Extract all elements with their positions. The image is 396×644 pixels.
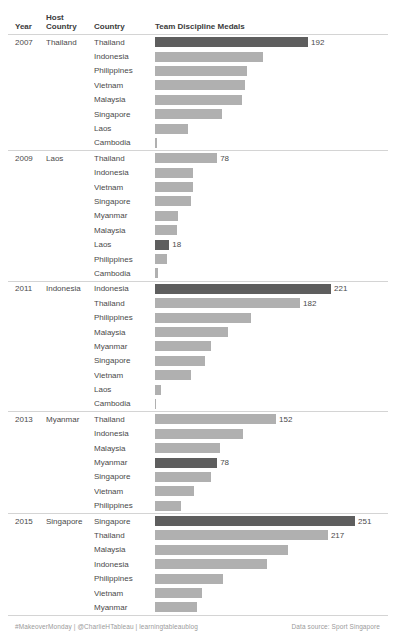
- bar-cell[interactable]: [155, 499, 388, 513]
- table-row[interactable]: Singapore: [8, 354, 388, 368]
- bar-cell[interactable]: [155, 543, 388, 557]
- medal-bar[interactable]: [155, 211, 178, 221]
- medal-bar[interactable]: [155, 602, 197, 612]
- medal-bar[interactable]: [155, 66, 247, 76]
- table-row[interactable]: 2007ThailandThailand192: [8, 35, 388, 49]
- table-row[interactable]: Indonesia: [8, 427, 388, 441]
- medal-bar[interactable]: [155, 443, 220, 453]
- bar-cell[interactable]: [155, 354, 388, 368]
- bar-cell[interactable]: 78: [155, 455, 388, 469]
- medal-bar[interactable]: [155, 399, 156, 409]
- table-row[interactable]: 2009LaosThailand78: [8, 151, 388, 165]
- medal-bar[interactable]: [155, 545, 288, 555]
- medal-bar[interactable]: [155, 341, 211, 351]
- bar-cell[interactable]: [155, 325, 388, 339]
- bar-cell[interactable]: [155, 571, 388, 585]
- bar-cell[interactable]: [155, 180, 388, 194]
- table-row[interactable]: Philippines: [8, 499, 388, 513]
- medal-bar[interactable]: [155, 109, 222, 119]
- medal-bar[interactable]: [155, 268, 158, 278]
- table-row[interactable]: Vietnam: [8, 586, 388, 600]
- bar-cell[interactable]: [155, 49, 388, 63]
- bar-cell[interactable]: [155, 266, 388, 280]
- bar-cell[interactable]: [155, 397, 388, 411]
- medal-bar[interactable]: [155, 153, 217, 163]
- table-row[interactable]: 2013MyanmarThailand152: [8, 412, 388, 426]
- medal-bar[interactable]: [155, 52, 263, 62]
- medal-bar[interactable]: [155, 574, 223, 584]
- table-row[interactable]: Philippines: [8, 252, 388, 266]
- medal-bar[interactable]: [155, 37, 308, 47]
- bar-cell[interactable]: [155, 93, 388, 107]
- bar-cell[interactable]: 192: [155, 35, 388, 49]
- table-row[interactable]: Myanmar: [8, 339, 388, 353]
- table-row[interactable]: Myanmar: [8, 209, 388, 223]
- table-row[interactable]: Myanmar: [8, 600, 388, 614]
- table-row[interactable]: Singapore: [8, 107, 388, 121]
- medal-bar[interactable]: [155, 559, 267, 569]
- medal-bar[interactable]: [155, 284, 331, 294]
- bar-cell[interactable]: 221: [155, 282, 388, 296]
- medal-bar[interactable]: [155, 501, 181, 511]
- table-row[interactable]: Laos: [8, 382, 388, 396]
- table-row[interactable]: Philippines: [8, 64, 388, 78]
- bar-cell[interactable]: [155, 136, 388, 150]
- table-row[interactable]: Malaysia: [8, 93, 388, 107]
- medal-bar[interactable]: [155, 385, 161, 395]
- table-row[interactable]: Malaysia: [8, 441, 388, 455]
- medal-bar[interactable]: [155, 486, 194, 496]
- medal-bar[interactable]: [155, 414, 276, 424]
- medal-bar[interactable]: [155, 370, 191, 380]
- medal-bar[interactable]: [155, 327, 228, 337]
- medal-bar[interactable]: [155, 124, 188, 134]
- table-row[interactable]: Laos18: [8, 237, 388, 251]
- table-row[interactable]: 2015SingaporeSingapore251: [8, 514, 388, 528]
- bar-cell[interactable]: [155, 484, 388, 498]
- bar-cell[interactable]: [155, 441, 388, 455]
- bar-cell[interactable]: [155, 121, 388, 135]
- table-row[interactable]: Malaysia: [8, 543, 388, 557]
- table-row[interactable]: Indonesia: [8, 49, 388, 63]
- table-row[interactable]: Vietnam: [8, 484, 388, 498]
- table-row[interactable]: Malaysia: [8, 325, 388, 339]
- bar-cell[interactable]: [155, 586, 388, 600]
- bar-cell[interactable]: [155, 310, 388, 324]
- bar-cell[interactable]: [155, 166, 388, 180]
- table-row[interactable]: Cambodia: [8, 397, 388, 411]
- medal-bar[interactable]: [155, 516, 355, 526]
- table-row[interactable]: Philippines: [8, 571, 388, 585]
- medal-bar[interactable]: [155, 429, 243, 439]
- medal-bar[interactable]: [155, 472, 211, 482]
- medal-bar[interactable]: [155, 298, 300, 308]
- bar-cell[interactable]: [155, 78, 388, 92]
- bar-cell[interactable]: [155, 470, 388, 484]
- medal-bar[interactable]: [155, 138, 157, 148]
- medal-bar[interactable]: [155, 530, 328, 540]
- medal-bar[interactable]: [155, 240, 169, 250]
- bar-cell[interactable]: 18: [155, 237, 388, 251]
- medal-bar[interactable]: [155, 254, 167, 264]
- medal-bar[interactable]: [155, 225, 177, 235]
- table-row[interactable]: Cambodia: [8, 266, 388, 280]
- medal-bar[interactable]: [155, 196, 191, 206]
- table-row[interactable]: Philippines: [8, 310, 388, 324]
- medal-bar[interactable]: [155, 588, 202, 598]
- bar-cell[interactable]: [155, 252, 388, 266]
- bar-cell[interactable]: [155, 600, 388, 614]
- bar-cell[interactable]: [155, 107, 388, 121]
- medal-bar[interactable]: [155, 182, 193, 192]
- bar-cell[interactable]: [155, 194, 388, 208]
- table-row[interactable]: Thailand217: [8, 528, 388, 542]
- table-row[interactable]: 2011IndonesiaIndonesia221: [8, 282, 388, 296]
- table-row[interactable]: Vietnam: [8, 180, 388, 194]
- medal-bar[interactable]: [155, 356, 205, 366]
- table-row[interactable]: Myanmar78: [8, 455, 388, 469]
- table-row[interactable]: Laos: [8, 121, 388, 135]
- table-row[interactable]: Cambodia: [8, 136, 388, 150]
- bar-cell[interactable]: [155, 557, 388, 571]
- bar-cell[interactable]: 217: [155, 528, 388, 542]
- table-row[interactable]: Indonesia: [8, 557, 388, 571]
- medal-bar[interactable]: [155, 313, 251, 323]
- medal-bar[interactable]: [155, 168, 193, 178]
- bar-cell[interactable]: 182: [155, 296, 388, 310]
